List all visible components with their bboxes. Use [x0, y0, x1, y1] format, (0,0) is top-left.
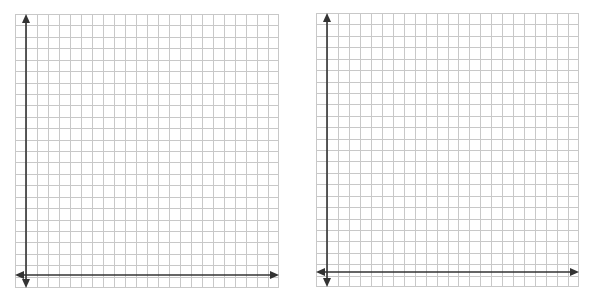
grid-lines	[316, 13, 579, 287]
arrow-up-icon	[323, 13, 331, 22]
coordinate-grid-right	[316, 13, 579, 287]
arrow-up-icon	[22, 14, 30, 23]
arrow-right-icon	[570, 268, 579, 276]
coordinate-grid-left	[15, 14, 279, 288]
arrow-down-icon	[22, 279, 30, 288]
grid-svg	[316, 13, 579, 287]
arrow-left-icon	[316, 268, 325, 276]
grid-lines	[15, 14, 279, 288]
arrow-down-icon	[323, 278, 331, 287]
grid-svg	[15, 14, 279, 288]
